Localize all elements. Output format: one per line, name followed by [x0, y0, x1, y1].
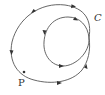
curve-label: C [94, 13, 102, 23]
curve-diagram [0, 0, 105, 95]
diagram-canvas: C P [0, 0, 105, 95]
arrow-icon [59, 64, 64, 68]
point-label: P [18, 78, 25, 88]
point-p-marker [23, 71, 26, 74]
arrow-icon [31, 9, 36, 14]
outer-loop [11, 5, 90, 83]
arrow-icon [10, 50, 14, 55]
inner-loop [44, 17, 89, 66]
